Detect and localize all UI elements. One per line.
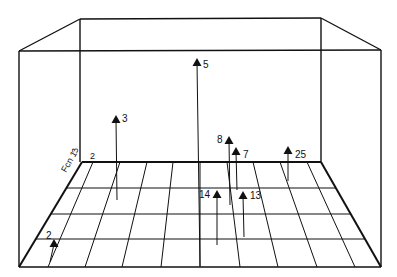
point-label: 2 xyxy=(46,230,52,241)
data-point: 3 xyxy=(112,113,129,200)
triangle-marker-icon xyxy=(193,58,202,66)
point-label: 7 xyxy=(243,149,249,160)
data-point: 14 xyxy=(199,189,222,245)
triangle-marker-icon xyxy=(112,115,121,123)
drop-line xyxy=(243,196,244,237)
triangle-marker-icon xyxy=(232,147,241,155)
triangle-marker-icon xyxy=(284,146,293,154)
triangle-marker-icon xyxy=(213,190,222,198)
point-label: 8 xyxy=(217,134,223,145)
drop-line xyxy=(229,141,230,205)
data-point: 7 xyxy=(232,147,250,190)
triangle-marker-icon xyxy=(239,191,248,199)
point-label: 3 xyxy=(122,113,128,124)
point-label: 5 xyxy=(203,59,209,70)
point-label: 25 xyxy=(295,149,307,160)
vertical-tick-label: 3 xyxy=(70,148,80,153)
back-tick-label: 2 xyxy=(90,151,95,161)
point-label: 13 xyxy=(250,190,262,201)
drop-line xyxy=(236,152,237,190)
point-label: 14 xyxy=(199,189,211,200)
triangle-marker-icon xyxy=(225,136,234,144)
data-point: 25 xyxy=(284,146,307,181)
scatter-3d-diagram: Fcn 1 3 2 23587251413 xyxy=(0,0,397,277)
